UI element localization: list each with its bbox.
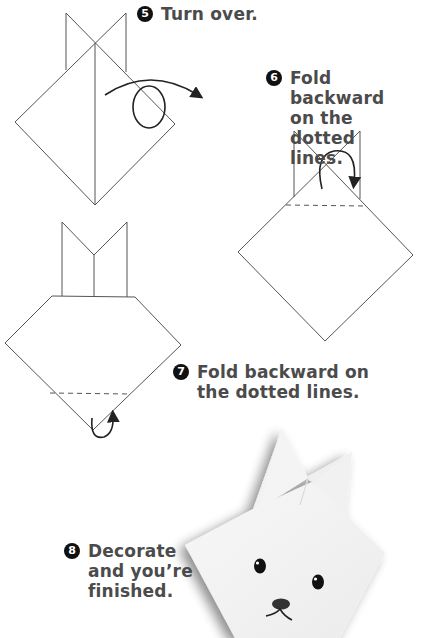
turn-over-arrow-icon (105, 80, 198, 128)
step-text: lines. (290, 148, 422, 168)
step-text: the dotted lines. (197, 382, 369, 402)
step-number-badge: 6 (266, 70, 282, 86)
step-number-badge: 8 (64, 543, 80, 559)
step-number-badge: 7 (173, 364, 189, 380)
step-text: and you’re (88, 561, 193, 581)
step-text: Decorate (88, 541, 193, 561)
step7-drawing (5, 222, 181, 430)
step-text: Fold backward (290, 68, 422, 108)
step-6-label: 6 Fold backward on the dotted lines. (266, 68, 422, 168)
step-text: on the dotted (290, 108, 422, 148)
step-number-badge: 5 (137, 6, 153, 22)
fold-backward-arrow-icon (92, 416, 113, 437)
right-eye-icon (312, 575, 324, 590)
step-text: Fold backward on (197, 362, 369, 382)
step5-drawing (15, 13, 175, 205)
step-text: finished. (88, 581, 193, 601)
step-7-label: 7 Fold backward on the dotted lines. (173, 362, 369, 402)
step-5-label: 5 Turn over. (137, 4, 258, 24)
left-eye-icon (254, 559, 266, 574)
nose-icon (272, 599, 290, 610)
step-text: Turn over. (161, 4, 258, 24)
step-8-label: 8 Decorate and you’re finished. (64, 541, 193, 601)
